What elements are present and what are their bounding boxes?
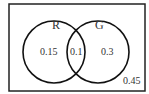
set-r-label: R <box>52 18 60 32</box>
venn-diagram: R G 0.15 0.1 0.3 0.45 <box>0 0 149 94</box>
region-r-only-value: 0.15 <box>40 46 58 57</box>
set-g-label: G <box>95 18 104 32</box>
region-outside-value: 0.45 <box>123 75 141 86</box>
region-intersection-value: 0.1 <box>70 46 83 57</box>
region-g-only-value: 0.3 <box>101 46 114 57</box>
